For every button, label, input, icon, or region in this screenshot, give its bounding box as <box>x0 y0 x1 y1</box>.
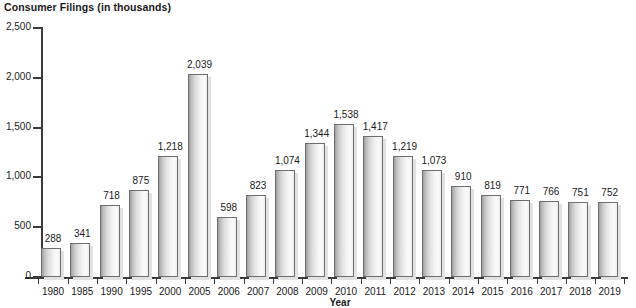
y-axis-tick-label: 1,000 <box>0 171 31 181</box>
x-axis-tick <box>390 279 391 284</box>
y-axis-tick <box>33 27 41 29</box>
bar[interactable] <box>70 243 90 277</box>
x-axis-title: Year <box>0 297 636 308</box>
x-axis-tick <box>478 279 479 284</box>
bar-value-label: 1,417 <box>347 122 403 132</box>
bar[interactable] <box>217 217 237 277</box>
bar[interactable] <box>598 202 618 277</box>
bar[interactable] <box>481 195 501 277</box>
bar[interactable] <box>510 200 530 277</box>
x-axis-tick <box>361 279 362 284</box>
x-axis-tick <box>537 279 538 284</box>
x-axis-tick <box>624 279 625 284</box>
x-axis-tick <box>331 279 332 284</box>
x-axis-title-text: Year <box>329 297 350 308</box>
y-axis-tick-label: 500 <box>0 221 31 231</box>
x-axis-tick <box>97 279 98 284</box>
bar[interactable] <box>41 248 61 277</box>
y-axis-tick-label: 0 <box>0 271 31 281</box>
bar-value-label: 1,538 <box>318 110 374 120</box>
x-axis-tick <box>449 279 450 284</box>
plot-area <box>41 28 628 277</box>
bar[interactable] <box>305 143 325 277</box>
bar[interactable] <box>158 156 178 277</box>
y-axis-tick <box>33 226 41 228</box>
x-axis-tick <box>244 279 245 284</box>
y-axis-tick-label: 1,500 <box>0 122 31 132</box>
bar-value-label: 1,073 <box>406 156 462 166</box>
bar[interactable] <box>363 136 383 277</box>
bar[interactable] <box>422 170 442 277</box>
bar[interactable] <box>451 186 471 277</box>
bar[interactable] <box>100 205 120 277</box>
bar[interactable] <box>539 201 559 277</box>
x-axis-tick <box>38 279 39 284</box>
bar[interactable] <box>334 124 354 277</box>
bar[interactable] <box>129 190 149 277</box>
bar[interactable] <box>568 202 588 277</box>
x-axis-label: 2019 <box>588 286 632 297</box>
y-axis-tick <box>33 127 41 129</box>
x-axis-tick <box>273 279 274 284</box>
x-axis-tick <box>566 279 567 284</box>
x-axis-tick <box>302 279 303 284</box>
bar-value-label: 1,219 <box>377 142 433 152</box>
chart-title: Consumer Filings (in thousands) <box>4 1 171 13</box>
bar[interactable] <box>188 74 208 277</box>
y-axis-tick <box>33 77 41 79</box>
x-axis-tick <box>126 279 127 284</box>
bar[interactable] <box>393 156 413 277</box>
bar[interactable] <box>275 170 295 277</box>
x-axis-tick <box>214 279 215 284</box>
bar-chart: Consumer Filings (in thousands) 05001,00… <box>0 0 636 308</box>
x-axis-tick <box>185 279 186 284</box>
bar-value-label: 752 <box>582 188 636 198</box>
y-axis-tick <box>33 176 41 178</box>
bar-value-label: 2,039 <box>172 60 228 70</box>
y-axis-tick-label: 2,000 <box>0 72 31 82</box>
x-axis-tick <box>156 279 157 284</box>
x-axis-tick <box>68 279 69 284</box>
x-axis-tick <box>507 279 508 284</box>
bar[interactable] <box>246 195 266 277</box>
x-axis-tick <box>419 279 420 284</box>
y-axis-tick-label: 2,500 <box>0 22 31 32</box>
x-axis-tick <box>595 279 596 284</box>
y-axis-tick <box>33 276 41 278</box>
